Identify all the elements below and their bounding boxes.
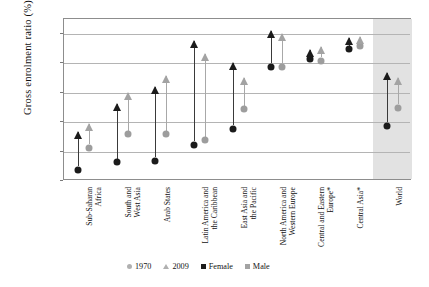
x-axis-label-line: Central Asia*: [357, 187, 366, 283]
y-tick-mark: [60, 33, 63, 34]
legend-item[interactable]: 1970: [127, 262, 151, 271]
legend-label: 1970: [135, 262, 151, 271]
y-tick-mark: [60, 92, 63, 93]
chart-root: Gross enrolment ratio (%) 020406080100 S…: [0, 0, 429, 287]
y-tick-mark: [60, 121, 63, 122]
x-axis-label: Central and EasternEurope*: [318, 187, 335, 283]
x-axis-label: Central Asia*: [357, 187, 366, 283]
x-axis-label-line: Western Europe: [288, 187, 297, 283]
y-tick-mark: [60, 180, 63, 181]
square-icon: [201, 264, 206, 269]
square-icon: [245, 264, 250, 269]
x-axis-label-line: World: [396, 187, 405, 283]
legend-label: Male: [253, 262, 270, 271]
triangle-icon: [163, 264, 169, 269]
legend-label: 2009: [172, 262, 188, 271]
x-axis-label: Sub-SaharanAfrica: [86, 187, 103, 283]
x-axis-label: World: [396, 187, 405, 283]
legend-item[interactable]: Female: [201, 262, 233, 271]
circle-icon: [127, 264, 132, 269]
y-tick-mark: [60, 62, 63, 63]
chart-legend: 19702009FemaleMale: [127, 262, 270, 271]
x-axis-label-line: Europe*: [327, 187, 336, 283]
x-axis-label: North America andWestern Europe: [280, 187, 297, 283]
legend-label: Female: [209, 262, 233, 271]
y-tick-mark: [60, 151, 63, 152]
legend-item[interactable]: 2009: [163, 262, 188, 271]
x-axis-label-line: Africa: [95, 187, 104, 283]
x-axis-label-line: North America and: [280, 187, 289, 283]
legend-item[interactable]: Male: [245, 262, 270, 271]
